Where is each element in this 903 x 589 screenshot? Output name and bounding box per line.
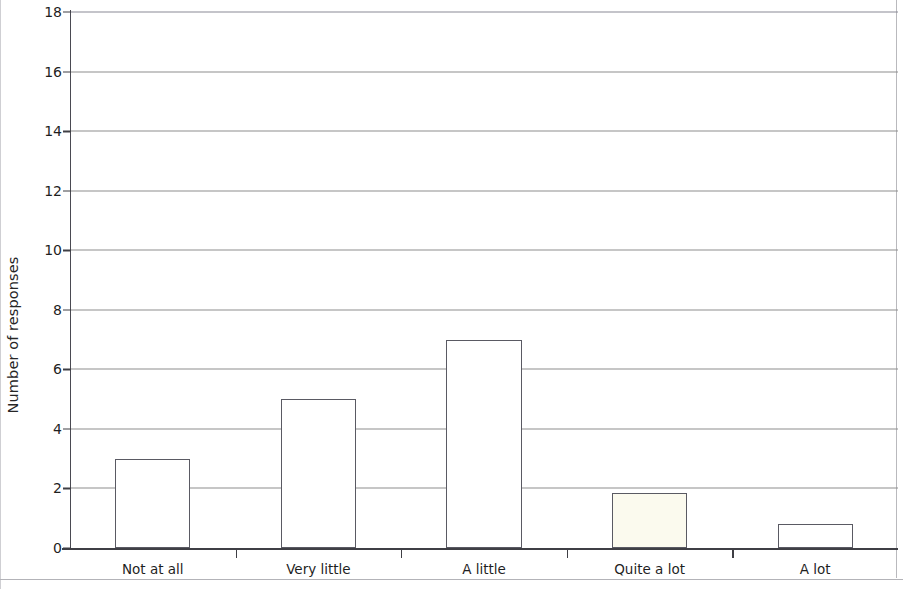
- y-axis-tick-label: 12: [32, 184, 62, 198]
- x-axis-tick-label: A lot: [800, 563, 831, 577]
- bar: [446, 340, 521, 548]
- y-axis-tick-label: 6: [32, 362, 62, 376]
- gridline: [70, 309, 898, 310]
- y-axis-tick-label: 16: [32, 65, 62, 79]
- y-axis-tick-label: 4: [32, 422, 62, 436]
- x-axis-tick-mark: [236, 549, 237, 558]
- y-axis-tick-label: 2: [32, 481, 62, 495]
- y-axis-title-text: Number of responses: [5, 257, 21, 414]
- x-axis-tick-label: Quite a lot: [614, 563, 685, 577]
- gridline: [70, 12, 898, 13]
- gridline: [70, 131, 898, 132]
- y-axis-tick-label: 14: [32, 124, 62, 138]
- y-axis-tick-label: 8: [32, 303, 62, 317]
- y-axis-tick-mark: [63, 309, 71, 310]
- x-axis-tick-label: Very little: [286, 563, 350, 577]
- y-axis-tick-label: 0: [32, 541, 62, 555]
- bar: [778, 524, 853, 548]
- y-axis-tick-mark: [63, 190, 71, 191]
- y-axis-tick-label: 10: [32, 243, 62, 257]
- y-axis-tick-mark: [63, 250, 71, 251]
- gridline: [70, 250, 898, 251]
- y-axis-tick-labels: 024681012141618: [26, 0, 62, 589]
- image-left-border: [0, 0, 1, 589]
- x-axis-tick-mark: [732, 549, 733, 558]
- y-axis-tick-mark: [63, 12, 71, 13]
- y-axis-tick-mark: [63, 131, 71, 132]
- y-axis-tick-mark: [63, 369, 71, 370]
- bar: [281, 399, 356, 548]
- y-axis-tick-mark: [63, 428, 71, 429]
- image-bottom-border: [0, 579, 903, 580]
- x-axis-tick-label: Not at all: [122, 563, 184, 577]
- y-axis-tick-mark: [63, 488, 71, 489]
- x-axis-tick-label: A little: [462, 563, 506, 577]
- y-axis-line: [70, 10, 71, 550]
- x-axis-tick-mark: [567, 549, 568, 558]
- gridline: [70, 71, 898, 72]
- x-axis-line: [62, 548, 898, 550]
- bar: [612, 493, 687, 548]
- x-axis-tick-mark: [401, 549, 402, 558]
- y-axis-tick-label: 18: [32, 5, 62, 19]
- y-axis-tick-mark: [63, 71, 71, 72]
- bar-chart: Number of responses 024681012141618 Not …: [0, 0, 903, 589]
- y-axis-tick-mark: [63, 548, 71, 549]
- gridline: [70, 190, 898, 191]
- bar: [115, 459, 190, 548]
- y-axis-title: Number of responses: [0, 0, 26, 560]
